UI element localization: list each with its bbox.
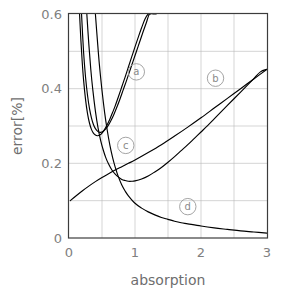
y-tick-label: 0.6 xyxy=(41,7,62,22)
y-tick-label: 0 xyxy=(54,231,62,246)
curve-label-text: a xyxy=(133,66,139,77)
y-axis-title: error[%] xyxy=(9,97,25,155)
curve-label-text: d xyxy=(185,201,191,212)
y-tick-label: 0.4 xyxy=(41,81,62,96)
chart-svg: 00.20.40.6 0123 abcd absorption error[%] xyxy=(0,0,292,295)
chart-figure: 00.20.40.6 0123 abcd absorption error[%] xyxy=(0,0,292,295)
curve-label-text: b xyxy=(212,73,218,84)
curve-label-text: c xyxy=(123,140,129,151)
x-tick-label: 1 xyxy=(131,245,139,260)
x-axis-title: absorption xyxy=(131,272,206,288)
y-tick-label: 0.2 xyxy=(41,156,62,171)
x-tick-label: 2 xyxy=(197,245,205,260)
x-tick-label: 0 xyxy=(65,245,73,260)
x-tick-label: 3 xyxy=(263,245,271,260)
chart-background xyxy=(0,0,292,295)
